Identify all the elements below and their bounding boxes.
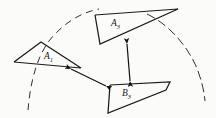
shape-b3-outline — [108, 82, 170, 113]
arrow-a3-to-b3 — [127, 44, 130, 81]
figure-container: A1 A3 B3 — [0, 0, 216, 118]
shape-b3: B3 — [108, 82, 170, 113]
shape-a1: A1 — [14, 42, 81, 68]
shape-a1-label: A1 — [43, 51, 53, 63]
shape-b3-label: B3 — [122, 88, 132, 100]
arrow-a1-to-b3 — [71, 69, 106, 86]
left-dashed-arc — [28, 9, 99, 110]
shape-a3: A3 — [95, 9, 178, 44]
shape-a3-outline — [95, 9, 178, 44]
shape-b3-label-subscript: 3 — [127, 93, 132, 100]
shape-a3-label: A3 — [110, 18, 121, 30]
transformation-diagram: A1 A3 B3 — [0, 0, 216, 118]
shape-a1-label-subscript: 1 — [50, 56, 53, 63]
shape-a3-label-subscript: 3 — [116, 23, 121, 30]
right-dashed-arc — [147, 14, 205, 101]
